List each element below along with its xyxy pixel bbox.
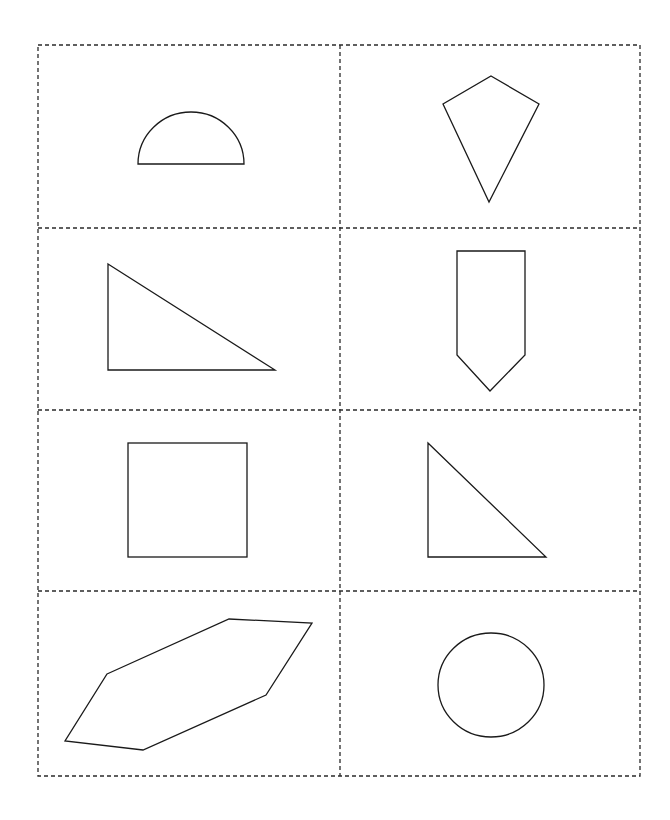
hexagon-shape xyxy=(65,619,312,750)
shape-cutout-sheet xyxy=(0,0,670,820)
cell-right-triangle-isosceles xyxy=(428,443,546,557)
cell-circle xyxy=(438,633,544,737)
circle-shape xyxy=(438,633,544,737)
square-shape xyxy=(128,443,247,557)
dashed-grid xyxy=(38,45,640,776)
pentagon-arrow-shape xyxy=(457,251,525,391)
kite-shape xyxy=(443,76,539,202)
cell-semicircle xyxy=(138,112,244,164)
cell-kite xyxy=(443,76,539,202)
cell-pentagon xyxy=(457,251,525,391)
right-triangle-shape-2 xyxy=(428,443,546,557)
cell-square xyxy=(128,443,247,557)
right-triangle-shape xyxy=(108,264,275,370)
semicircle-shape xyxy=(138,112,244,164)
cell-right-triangle-wide xyxy=(108,264,275,370)
cell-hexagon xyxy=(65,619,312,750)
